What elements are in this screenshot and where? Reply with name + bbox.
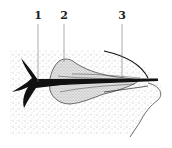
diagram-canvas: 1 2 3 bbox=[0, 0, 172, 148]
label-1: 1 bbox=[34, 10, 42, 21]
diagram-svg bbox=[0, 0, 172, 148]
label-2: 2 bbox=[60, 10, 68, 21]
label-3: 3 bbox=[118, 10, 126, 21]
